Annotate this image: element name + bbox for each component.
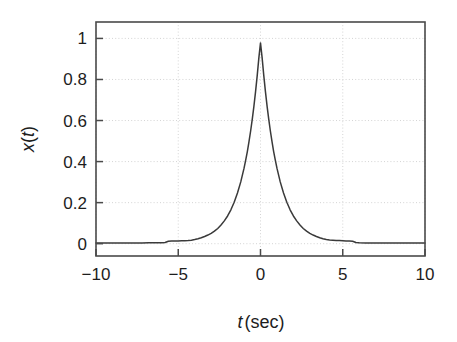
x-tick-labels: −10−50510 bbox=[82, 265, 435, 284]
y-tick-label: 1 bbox=[78, 29, 87, 48]
y-tick-label: 0.2 bbox=[63, 194, 87, 213]
x-tick-label: 10 bbox=[416, 265, 435, 284]
x-tick-label: 5 bbox=[338, 265, 347, 284]
y-tick-label: 0 bbox=[78, 235, 87, 254]
y-tick-labels: 00.20.40.60.81 bbox=[63, 29, 87, 253]
line-chart: −10−50510 00.20.40.60.81 t(sec) x(t) bbox=[0, 0, 457, 342]
y-tick-label: 0.8 bbox=[63, 70, 87, 89]
figure-container: −10−50510 00.20.40.60.81 t(sec) x(t) bbox=[0, 0, 457, 342]
x-tick-label: −10 bbox=[82, 265, 111, 284]
scan-edge-artifact bbox=[0, 336, 457, 342]
y-tick-label: 0.6 bbox=[63, 112, 87, 131]
y-axis-title: x(t) bbox=[18, 126, 38, 153]
x-tick-label: 0 bbox=[256, 265, 265, 284]
x-tick-label: −5 bbox=[169, 265, 188, 284]
x-axis-title: t(sec) bbox=[237, 312, 284, 332]
y-tick-label: 0.4 bbox=[63, 153, 87, 172]
